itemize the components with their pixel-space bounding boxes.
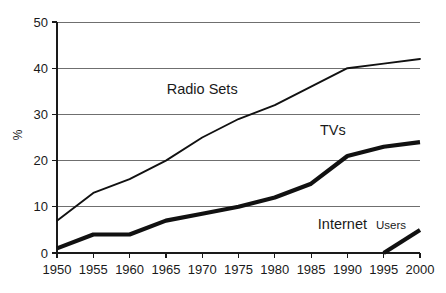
series-label-internet: Internet	[318, 216, 367, 232]
series-label-internet-users: Internet Users	[318, 216, 406, 232]
x-tick-label-1965: 1965	[151, 262, 180, 277]
x-tick-label-1955: 1955	[79, 262, 108, 277]
series-line-radio-sets	[57, 59, 420, 221]
y-tick-label-20: 20	[34, 153, 48, 168]
series-line-internet-users	[384, 230, 420, 253]
x-tick-label-1960: 1960	[115, 262, 144, 277]
series-line-tvs	[57, 142, 420, 248]
x-tick-label-2000: 2000	[406, 262, 435, 277]
y-tick-label-40: 40	[34, 61, 48, 76]
y-tick-label-0: 0	[41, 246, 48, 261]
chart-canvas: 01020304050 1950195519601965197019751980…	[0, 0, 446, 293]
y-tick-label-10: 10	[34, 199, 48, 214]
x-tick-label-1980: 1980	[260, 262, 289, 277]
y-axis-tick-labels: 01020304050	[34, 15, 48, 261]
x-tick-label-1970: 1970	[188, 262, 217, 277]
x-axis-tick-labels: 1950195519601965197019751980198519901995…	[43, 262, 435, 277]
y-axis-title: %	[11, 129, 25, 140]
x-tick-label-1950: 1950	[43, 262, 72, 277]
series-label-users: Users	[376, 219, 406, 231]
series-label-tvs: TVs	[320, 122, 346, 138]
x-tick-label-1990: 1990	[333, 262, 362, 277]
x-tick-label-1995: 1995	[369, 262, 398, 277]
y-tick-label-30: 30	[34, 107, 48, 122]
x-tick-label-1985: 1985	[297, 262, 326, 277]
x-tick-label-1975: 1975	[224, 262, 253, 277]
gridlines-group	[57, 22, 420, 207]
y-tick-label-50: 50	[34, 15, 48, 30]
series-label-radio-sets: Radio Sets	[167, 81, 238, 97]
line-chart: 01020304050 1950195519601965197019751980…	[0, 0, 446, 293]
